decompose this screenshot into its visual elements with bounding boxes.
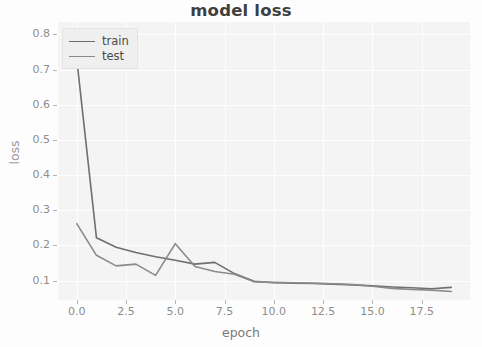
x-axis-label: epoch xyxy=(0,325,482,340)
y-tick-label-0.4: 0.4 xyxy=(22,168,50,181)
y-axis-label: loss xyxy=(7,123,22,183)
chart-title: model loss xyxy=(0,1,482,20)
legend-label-test: test xyxy=(102,49,124,63)
x-tick-mark-5.0 xyxy=(175,300,176,304)
y-tick-label-0.5: 0.5 xyxy=(22,133,50,146)
x-tick-mark-15.0 xyxy=(372,300,373,304)
x-tick-label-15.0: 15.0 xyxy=(352,305,392,318)
y-tick-mark-0.7 xyxy=(53,70,57,71)
y-tick-mark-0.6 xyxy=(53,105,57,106)
x-tick-mark-7.5 xyxy=(225,300,226,304)
y-tick-label-0.2: 0.2 xyxy=(22,238,50,251)
legend-item-test: test xyxy=(69,48,129,63)
y-tick-label-0.7: 0.7 xyxy=(22,63,50,76)
y-tick-label-0.3: 0.3 xyxy=(22,203,50,216)
y-tick-label-0.6: 0.6 xyxy=(22,98,50,111)
x-tick-mark-10.0 xyxy=(274,300,275,304)
x-tick-mark-0.0 xyxy=(77,300,78,304)
x-tick-label-10.0: 10.0 xyxy=(254,305,294,318)
y-tick-mark-0.5 xyxy=(53,140,57,141)
series-line-train xyxy=(77,59,452,289)
y-tick-mark-0.8 xyxy=(53,34,57,35)
y-tick-label-0.1: 0.1 xyxy=(22,274,50,287)
legend: train test xyxy=(62,28,138,69)
x-tick-label-7.5: 7.5 xyxy=(205,305,245,318)
x-tick-label-5.0: 5.0 xyxy=(155,305,195,318)
legend-swatch-test xyxy=(69,50,95,61)
legend-swatch-train xyxy=(69,35,95,46)
y-tick-mark-0.1 xyxy=(53,281,57,282)
y-tick-mark-0.3 xyxy=(53,210,57,211)
x-tick-label-17.5: 17.5 xyxy=(402,305,442,318)
matplotlib-figure: model loss 0.10.20.30.40.50.60.70.8 0.02… xyxy=(0,0,482,347)
x-tick-mark-12.5 xyxy=(323,300,324,304)
x-tick-label-2.5: 2.5 xyxy=(106,305,146,318)
x-tick-label-12.5: 12.5 xyxy=(303,305,343,318)
x-tick-mark-17.5 xyxy=(422,300,423,304)
series-line-test xyxy=(77,224,452,292)
legend-item-train: train xyxy=(69,33,129,48)
y-tick-label-0.8: 0.8 xyxy=(22,27,50,40)
x-tick-mark-2.5 xyxy=(126,300,127,304)
y-tick-mark-0.4 xyxy=(53,175,57,176)
legend-label-train: train xyxy=(102,34,129,48)
x-tick-label-0.0: 0.0 xyxy=(57,305,97,318)
y-tick-mark-0.2 xyxy=(53,245,57,246)
